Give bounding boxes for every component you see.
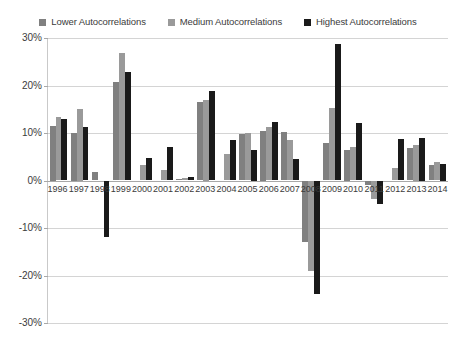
- x-axis-tick-label: 2001: [153, 182, 174, 196]
- bar: [251, 150, 257, 181]
- y-axis-tick-label: 30%: [22, 33, 42, 43]
- bar-slot: [343, 38, 364, 323]
- bar-group: [90, 38, 111, 323]
- legend-item[interactable]: Medium Autocorrelations: [168, 17, 282, 27]
- x-axis-tick-label: 2007: [279, 182, 300, 196]
- bar: [83, 127, 89, 181]
- bar-slot: [69, 38, 90, 323]
- bar-slot: [258, 38, 279, 323]
- bar: [419, 138, 425, 181]
- x-axis-tick-label: 2013: [406, 182, 427, 196]
- x-axis-tick-label: 1999: [110, 182, 131, 196]
- chart-legend: Lower AutocorrelationsMedium Autocorrela…: [0, 14, 456, 30]
- y-axis-tick-label: 0%: [28, 176, 42, 186]
- x-axis-tick-label: 2005: [237, 182, 258, 196]
- bar-slot: [195, 38, 216, 323]
- square-marker-icon: [304, 19, 311, 26]
- bar: [356, 123, 362, 181]
- x-axis-tick-label: 2004: [216, 182, 237, 196]
- square-marker-icon: [39, 19, 46, 26]
- bar: [188, 177, 194, 181]
- bar-slot: [280, 38, 301, 323]
- bars-layer: [48, 38, 448, 323]
- x-axis-tick-label: 2012: [385, 182, 406, 196]
- bar-slot: [174, 38, 195, 323]
- y-axis-tick-label: -10%: [19, 223, 42, 233]
- bar-group: [237, 38, 258, 323]
- legend-item-label: Medium Autocorrelations: [180, 17, 282, 27]
- bar: [92, 172, 98, 181]
- bar-group: [132, 38, 153, 323]
- bar: [272, 122, 278, 180]
- gridline: [48, 323, 448, 324]
- legend-item[interactable]: Highest Autocorrelations: [304, 17, 417, 27]
- y-tick-mark: [44, 323, 48, 324]
- bar-group: [216, 38, 237, 323]
- bar-group: [48, 38, 69, 323]
- x-axis-labels: 1996199719981999200020012002200320042005…: [47, 182, 448, 196]
- bar-slot: [216, 38, 237, 323]
- bar: [125, 72, 131, 181]
- bar-slot: [48, 38, 69, 323]
- bar-slot: [364, 38, 385, 323]
- bar-group: [385, 38, 406, 323]
- bar: [209, 91, 215, 180]
- x-axis-tick-label: 1996: [47, 182, 68, 196]
- bar-group: [258, 38, 279, 323]
- bar: [314, 181, 320, 294]
- bar-slot: [385, 38, 406, 323]
- x-axis-tick-label: 2006: [258, 182, 279, 196]
- bar-slot: [406, 38, 427, 323]
- y-axis-tick-label: 10%: [22, 128, 42, 138]
- x-axis-tick-label: 2010: [343, 182, 364, 196]
- legend-item-label: Highest Autocorrelations: [316, 17, 417, 27]
- bar: [61, 119, 67, 180]
- x-axis-tick-label: 1997: [68, 182, 89, 196]
- bar-group: [343, 38, 364, 323]
- bar-slot: [427, 38, 448, 323]
- legend-item-label: Lower Autocorrelations: [51, 17, 145, 27]
- bar: [293, 159, 299, 181]
- bar-slot: [237, 38, 258, 323]
- bar-slot: [153, 38, 174, 323]
- bar-group: [301, 38, 322, 323]
- square-marker-icon: [168, 19, 175, 26]
- bar-chart: Lower AutocorrelationsMedium Autocorrela…: [0, 0, 456, 345]
- y-axis-tick-label: 20%: [22, 81, 42, 91]
- x-axis-tick-label: 2003: [195, 182, 216, 196]
- bar-group: [406, 38, 427, 323]
- bar: [440, 164, 446, 181]
- bar: [146, 158, 152, 180]
- bar-group: [427, 38, 448, 323]
- bar-group: [69, 38, 90, 323]
- bar-group: [111, 38, 132, 323]
- x-axis-tick-label: 1998: [89, 182, 110, 196]
- bar: [335, 44, 341, 180]
- plot-area: 30%20%10%0%-10%-20%-30%: [47, 38, 448, 323]
- legend-item[interactable]: Lower Autocorrelations: [39, 17, 145, 27]
- x-axis-tick-label: 2000: [131, 182, 152, 196]
- bar-group: [280, 38, 301, 323]
- x-axis-tick-label: 2014: [427, 182, 448, 196]
- bar-slot: [322, 38, 343, 323]
- bar-group: [174, 38, 195, 323]
- bar-slot: [132, 38, 153, 323]
- y-axis-tick-label: -20%: [19, 271, 42, 281]
- bar: [230, 140, 236, 181]
- bar-group: [195, 38, 216, 323]
- x-axis-tick-label: 2008: [300, 182, 321, 196]
- bar: [167, 147, 173, 181]
- bar-group: [153, 38, 174, 323]
- bar-slot: [301, 38, 322, 323]
- x-axis-tick-label: 2011: [364, 182, 385, 196]
- y-axis-tick-label: -30%: [19, 318, 42, 328]
- bar-slot: [90, 38, 111, 323]
- bar: [398, 139, 404, 181]
- x-axis-tick-label: 2009: [321, 182, 342, 196]
- x-axis-tick-label: 2002: [174, 182, 195, 196]
- bar-slot: [111, 38, 132, 323]
- bar-group: [364, 38, 385, 323]
- bar-group: [322, 38, 343, 323]
